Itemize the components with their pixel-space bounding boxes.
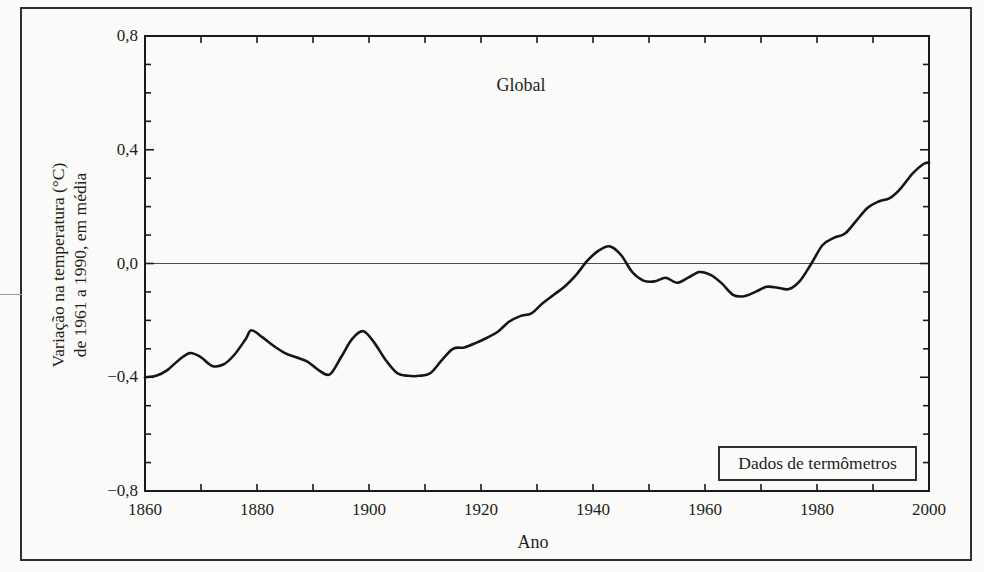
x-tick-label-1860: 1860	[113, 500, 177, 520]
series-annotation-global: Global	[451, 75, 591, 96]
x-axis-title: Ano	[473, 532, 593, 553]
x-tick-label-1920: 1920	[449, 500, 513, 520]
legend-box: Dados de termômetros	[718, 446, 917, 481]
x-tick-label-1900: 1900	[337, 500, 401, 520]
figure-scanned-chart: Global Ano Variação na temperatura (°C) …	[0, 0, 984, 572]
x-tick-label-1880: 1880	[225, 500, 289, 520]
y-tick-label-−0,8: −0,8	[76, 481, 138, 501]
x-tick-label-1960: 1960	[673, 500, 737, 520]
y-tick-label-0,4: 0,4	[76, 140, 138, 160]
series-global-curve	[145, 163, 929, 378]
y-tick-label-−0,4: −0,4	[76, 367, 138, 387]
legend-box-label: Dados de termômetros	[738, 453, 896, 474]
x-tick-label-1940: 1940	[561, 500, 625, 520]
y-tick-label-0,0: 0,0	[76, 254, 138, 274]
x-tick-label-1980: 1980	[785, 500, 849, 520]
y-tick-label-0,8: 0,8	[76, 26, 138, 46]
x-tick-label-2000: 2000	[897, 500, 961, 520]
y-axis-title-line1: Variação na temperatura (°C)	[47, 115, 69, 415]
